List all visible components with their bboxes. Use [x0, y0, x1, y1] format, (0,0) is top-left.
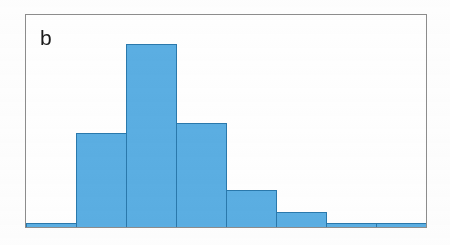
histogram-bar	[276, 212, 326, 227]
histogram-bar	[226, 191, 276, 227]
histogram-bar	[126, 45, 176, 227]
figure-panel: b	[0, 0, 450, 245]
histogram-bar	[76, 134, 126, 227]
plot-area	[26, 15, 426, 227]
histogram-bar	[326, 224, 376, 227]
histogram-bar	[176, 123, 226, 227]
histogram-bars	[26, 15, 426, 227]
histogram-bar	[26, 224, 76, 227]
plot-frame: b	[25, 14, 427, 228]
histogram-bar	[376, 224, 426, 227]
